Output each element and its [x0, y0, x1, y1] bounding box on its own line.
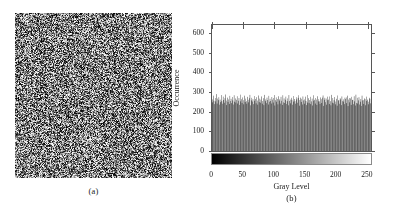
- x-axis-tick-label: 0: [209, 170, 213, 179]
- y-axis-tick-labels: 0100200300400500600: [178, 24, 209, 152]
- y-axis-tick-label: 200: [193, 106, 204, 115]
- y-axis-tick: [371, 92, 375, 93]
- x-axis-tick-label: 250: [361, 170, 372, 179]
- y-axis-tick-label: 600: [193, 27, 204, 36]
- histogram-bars: [212, 25, 371, 151]
- x-axis-tick: [212, 25, 213, 29]
- x-axis-tick-label: 50: [238, 170, 246, 179]
- figure-root: (a) Occurrence 0100200300400500600 05010…: [0, 0, 400, 220]
- y-axis-tick: [209, 151, 213, 152]
- plot-area: [211, 24, 372, 152]
- x-axis-tick: [337, 25, 338, 29]
- panel-b-histogram: Occurrence 0100200300400500600 050100150…: [178, 10, 388, 210]
- grayscale-noise-image: [15, 13, 172, 178]
- caption-b: (b): [211, 193, 372, 203]
- x-axis-tick-labels: 050100150200250: [211, 170, 372, 182]
- caption-a: (a): [15, 186, 172, 196]
- y-axis-tick: [371, 33, 375, 34]
- x-axis-tick-label: 100: [268, 170, 279, 179]
- x-axis-tick: [274, 25, 275, 29]
- x-axis-tick: [368, 25, 369, 29]
- y-axis-tick: [209, 72, 213, 73]
- y-axis-tick-label: 100: [193, 126, 204, 135]
- x-axis-tick: [306, 25, 307, 29]
- y-axis-tick: [209, 33, 213, 34]
- y-axis-tick: [371, 112, 375, 113]
- x-axis-tick: [243, 25, 244, 29]
- y-axis-tick-label: 300: [193, 86, 204, 95]
- x-axis-title: Gray Level: [211, 182, 372, 191]
- y-axis-tick: [371, 131, 375, 132]
- y-axis-tick: [209, 131, 213, 132]
- x-axis-tick-label: 200: [330, 170, 341, 179]
- y-axis-tick: [209, 112, 213, 113]
- y-axis-tick-label: 400: [193, 67, 204, 76]
- y-axis-tick: [209, 53, 213, 54]
- panel-a-noise-image: [15, 13, 172, 178]
- y-axis-tick-label: 0: [200, 146, 204, 155]
- y-axis-tick-label: 500: [193, 47, 204, 56]
- x-axis-tick-label: 150: [299, 170, 310, 179]
- y-axis-tick: [371, 151, 375, 152]
- y-axis-tick: [371, 53, 375, 54]
- grayscale-colorbar: [211, 153, 372, 165]
- y-axis-tick: [371, 72, 375, 73]
- y-axis-tick: [209, 92, 213, 93]
